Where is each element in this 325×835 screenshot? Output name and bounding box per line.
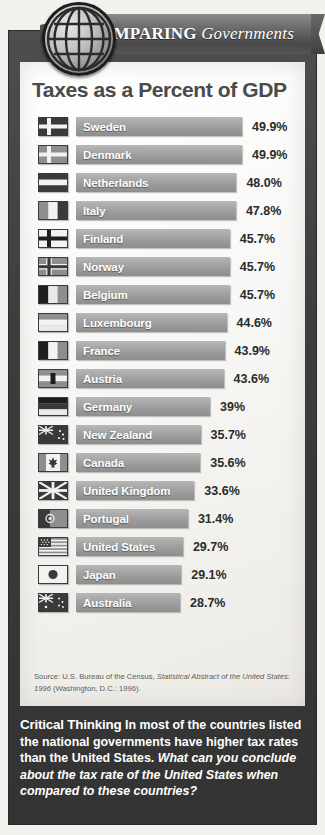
source-suffix: (Washington, D.C.: 1996). xyxy=(51,684,141,693)
value-label: 39% xyxy=(220,400,245,414)
flag-germany-icon xyxy=(38,397,68,416)
country-label: Finland xyxy=(76,233,123,245)
country-label: Australia xyxy=(76,597,131,609)
value-label: 35.6% xyxy=(210,456,245,470)
country-label: Netherlands xyxy=(76,177,148,189)
value-label: 35.7% xyxy=(211,428,246,442)
bar: Austria xyxy=(76,369,224,388)
bar: Finland xyxy=(76,229,230,248)
value-label: 48.0% xyxy=(246,176,281,190)
chart-card: Taxes as a Percent of GDP Sweden49.9%Den… xyxy=(20,62,305,706)
country-label: Sweden xyxy=(76,121,126,133)
table-row: Belgium45.7% xyxy=(20,281,305,309)
value-label: 44.6% xyxy=(237,316,272,330)
bar: Australia xyxy=(76,593,180,612)
country-label: United Kingdom xyxy=(76,485,170,497)
bar: United States xyxy=(76,537,183,556)
flag-austria-icon xyxy=(38,369,68,388)
banner-word-governments: Governments xyxy=(201,24,294,43)
value-label: 29.1% xyxy=(191,568,226,582)
table-row: Austria43.6% xyxy=(20,365,305,393)
globe-icon xyxy=(42,2,116,76)
value-label: 45.7% xyxy=(240,232,275,246)
critical-thinking-label: Critical Thinking xyxy=(20,717,122,732)
flag-belgium-icon xyxy=(38,285,68,304)
flag-japan-icon xyxy=(38,565,68,584)
critical-thinking-block: Critical Thinking In most of the countri… xyxy=(20,716,305,800)
flag-finland-icon xyxy=(38,229,68,248)
bar: Germany xyxy=(76,397,210,416)
bar: New Zealand xyxy=(76,425,201,444)
table-row: United States29.7% xyxy=(20,533,305,561)
bar: Denmark xyxy=(76,145,242,164)
value-label: 31.4% xyxy=(198,512,233,526)
bar: Norway xyxy=(76,257,230,276)
value-label: 47.8% xyxy=(246,204,281,218)
value-label: 33.6% xyxy=(204,484,239,498)
bar: Canada xyxy=(76,453,200,472)
bar: Japan xyxy=(76,565,181,584)
country-label: Italy xyxy=(76,205,106,217)
source-note: Source: U.S. Bureau of the Census, Stati… xyxy=(34,671,291,694)
table-row: Norway45.7% xyxy=(20,253,305,281)
flag-canada-icon xyxy=(38,453,68,472)
bar: Portugal xyxy=(76,509,188,528)
flag-netherlands-icon xyxy=(38,173,68,192)
flag-australia-icon xyxy=(38,593,68,612)
value-label: 45.7% xyxy=(240,288,275,302)
table-row: Portugal31.4% xyxy=(20,505,305,533)
country-label: Japan xyxy=(76,569,116,581)
country-label: Portugal xyxy=(76,513,129,525)
flag-new-zealand-icon xyxy=(38,425,68,444)
flag-portugal-icon xyxy=(38,509,68,528)
country-label: Denmark xyxy=(76,149,132,161)
table-row: Luxembourg44.6% xyxy=(20,309,305,337)
table-row: Italy47.8% xyxy=(20,197,305,225)
table-row: Australia28.7% xyxy=(20,589,305,617)
flag-denmark-icon xyxy=(38,145,68,164)
flag-norway-icon xyxy=(38,257,68,276)
bar: Belgium xyxy=(76,285,230,304)
value-label: 43.9% xyxy=(235,344,270,358)
source-prefix: Source: U.S. Bureau of the Census, xyxy=(34,672,157,681)
banner-notch-right xyxy=(311,14,325,54)
bar: Sweden xyxy=(76,117,242,136)
flag-italy-icon xyxy=(38,201,68,220)
bar: Italy xyxy=(76,201,236,220)
bar-chart: Sweden49.9%Denmark49.9%Netherlands48.0%I… xyxy=(20,113,305,617)
flag-united-states-icon xyxy=(38,537,68,556)
bar: France xyxy=(76,341,225,360)
bar: United Kingdom xyxy=(76,481,194,500)
value-label: 28.7% xyxy=(190,596,225,610)
country-label: Belgium xyxy=(76,289,128,301)
table-row: Sweden49.9% xyxy=(20,113,305,141)
value-label: 49.9% xyxy=(252,148,287,162)
table-row: Finland45.7% xyxy=(20,225,305,253)
table-row: New Zealand35.7% xyxy=(20,421,305,449)
flag-france-icon xyxy=(38,341,68,360)
value-label: 45.7% xyxy=(240,260,275,274)
bar: Luxembourg xyxy=(76,313,227,332)
value-label: 43.6% xyxy=(234,372,269,386)
bar: Netherlands xyxy=(76,173,236,192)
country-label: Austria xyxy=(76,373,122,385)
page-title: Taxes as a Percent of GDP xyxy=(32,78,305,101)
value-label: 29.7% xyxy=(193,540,228,554)
table-row: United Kingdom33.6% xyxy=(20,477,305,505)
table-row: Netherlands48.0% xyxy=(20,169,305,197)
banner-title: COMPARING Governments xyxy=(88,24,294,44)
flag-sweden-icon xyxy=(38,117,68,136)
country-label: Luxembourg xyxy=(76,317,152,329)
country-label: New Zealand xyxy=(76,429,152,441)
table-row: Japan29.1% xyxy=(20,561,305,589)
flag-united-kingdom-icon xyxy=(38,481,68,500)
country-label: United States xyxy=(76,541,155,553)
table-row: France43.9% xyxy=(20,337,305,365)
table-row: Germany39% xyxy=(20,393,305,421)
infographic-poster: COMPARING Governments Taxes as a Percent… xyxy=(0,0,325,835)
table-row: Canada35.6% xyxy=(20,449,305,477)
table-row: Denmark49.9% xyxy=(20,141,305,169)
flag-luxembourg-icon xyxy=(38,313,68,332)
country-label: Norway xyxy=(76,261,124,273)
value-label: 49.9% xyxy=(252,120,287,134)
